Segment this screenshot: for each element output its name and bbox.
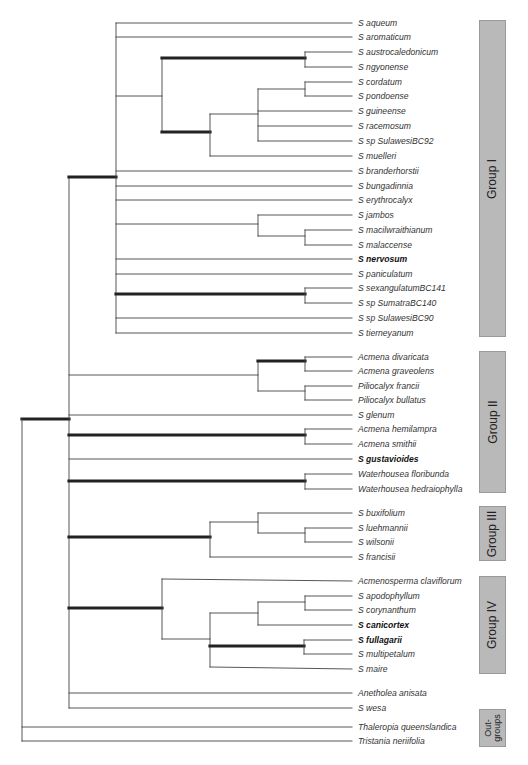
taxon-label: S paniculatum — [358, 269, 412, 279]
phylogenetic-tree — [0, 0, 528, 765]
taxon-label: S aqueum — [358, 18, 397, 28]
taxon-label: S guineense — [358, 106, 406, 116]
taxon-label: S glenum — [358, 410, 394, 420]
taxon-label: S corynanthum — [358, 605, 416, 615]
taxon-label: S wilsonii — [358, 537, 394, 547]
taxon-label: S multipetalum — [358, 649, 415, 659]
taxon-label: Waterhousea hedraiophylla — [358, 484, 462, 494]
taxon-label: Acmenosperma claviflorum — [358, 576, 462, 586]
taxon-label: S branderhorstii — [358, 166, 419, 176]
taxon-label: S erythrocalyx — [358, 195, 412, 205]
taxon-label: Acmena graveolens — [358, 366, 434, 376]
taxon-label: Piliocalyx francii — [358, 381, 419, 391]
taxon-label: Acmena smithii — [358, 439, 416, 449]
taxon-label: Acmena divaricata — [358, 352, 429, 362]
group-label: Out-groups — [484, 714, 502, 742]
taxon-label: S canicortex — [358, 620, 409, 630]
taxon-label: S sp SulawesiBC90 — [358, 313, 433, 323]
taxon-label: S luehmannii — [358, 523, 408, 533]
taxon-label: S aromaticum — [358, 32, 411, 42]
taxon-label: S apodophyllum — [358, 591, 420, 601]
taxon-label: Piliocalyx bullatus — [358, 395, 426, 405]
group-label: Group II — [486, 400, 500, 443]
group-box: Group I — [479, 20, 506, 337]
taxon-label: S tierneyanum — [358, 328, 413, 338]
taxon-label: S malaccense — [358, 240, 412, 250]
taxon-label: S fullagarii — [358, 635, 402, 645]
taxon-label: S sp SulawesiBC92 — [358, 136, 433, 146]
taxon-label: S austrocaledonicum — [358, 47, 438, 57]
taxon-label: S cordatum — [358, 77, 402, 87]
taxon-label: S racemosum — [358, 121, 411, 131]
taxon-label: S muelleri — [358, 151, 396, 161]
taxon-label: Tristania neriifolia — [358, 736, 425, 746]
taxon-label: S ngyonense — [358, 62, 408, 72]
taxon-label: S buxifolium — [358, 508, 405, 518]
taxon-label: S wesa — [358, 703, 386, 713]
branch — [210, 667, 352, 669]
taxon-label: Waterhousea floribunda — [358, 469, 449, 479]
taxon-label: S macilwraithianum — [358, 225, 433, 235]
taxon-label: S sp SumatraBC140 — [358, 298, 436, 308]
taxon-label: S maire — [358, 664, 388, 674]
taxon-label: S pondoense — [358, 91, 409, 101]
group-box: Group IV — [479, 576, 506, 674]
taxon-label: S francisii — [358, 552, 395, 562]
taxon-label: S nervosum — [358, 254, 407, 264]
group-box: Group III — [479, 506, 506, 561]
taxon-label: Acmena hemilampra — [358, 424, 437, 434]
group-label: Group I — [486, 158, 500, 198]
taxon-label: S bungadinnia — [358, 181, 413, 191]
group-label: Group IV — [486, 601, 500, 649]
group-box: Group II — [479, 351, 506, 493]
taxon-label: S sexangulatumBC141 — [358, 283, 446, 293]
branch — [162, 579, 352, 581]
taxon-label: Thaleropia queenslandica — [358, 722, 456, 732]
group-label: Group III — [486, 510, 500, 557]
taxon-label: S gustavioides — [358, 454, 419, 464]
taxon-label: Anetholea anisata — [358, 688, 427, 698]
taxon-label: S jambos — [358, 210, 394, 220]
group-box: Out-groups — [479, 709, 506, 747]
